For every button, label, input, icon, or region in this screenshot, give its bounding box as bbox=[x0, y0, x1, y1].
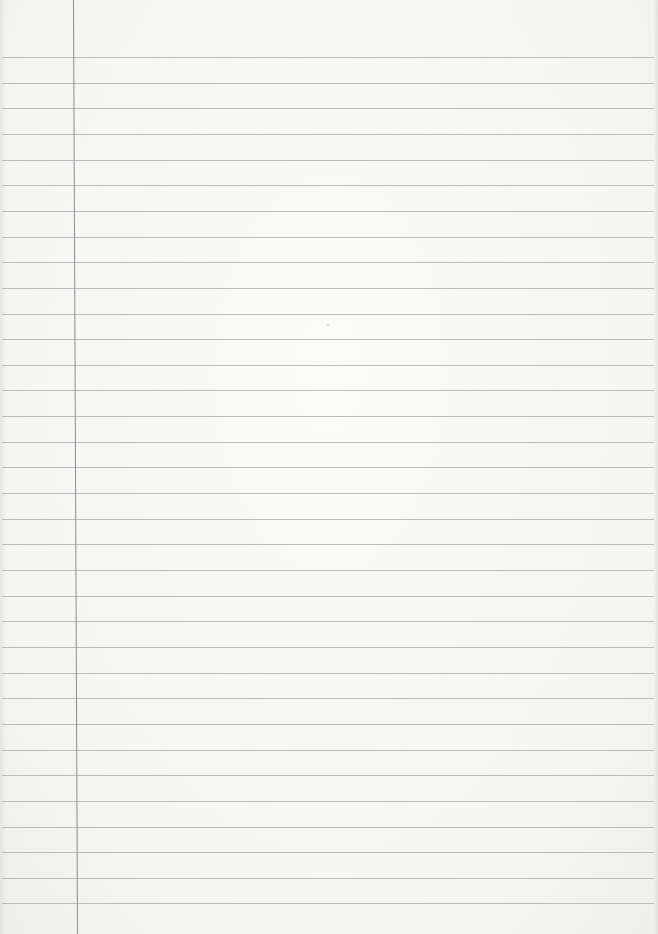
ruled-line bbox=[2, 852, 654, 853]
ruled-line bbox=[2, 288, 654, 289]
ruled-line bbox=[2, 416, 654, 417]
ruled-line bbox=[2, 262, 654, 263]
ruled-line bbox=[2, 160, 654, 161]
ruled-line bbox=[2, 237, 654, 238]
ruled-line bbox=[2, 544, 654, 545]
ruled-line bbox=[2, 108, 654, 109]
ruled-line bbox=[2, 801, 654, 802]
ruled-line bbox=[2, 442, 654, 443]
ruled-line bbox=[2, 724, 654, 725]
ruled-line bbox=[2, 134, 654, 135]
ruled-line bbox=[2, 339, 654, 340]
ruled-line bbox=[2, 596, 654, 597]
lined-paper-sheet bbox=[0, 0, 658, 934]
ruled-line bbox=[2, 827, 654, 828]
ruled-line bbox=[2, 83, 654, 84]
ruled-line bbox=[2, 647, 654, 648]
ruled-line bbox=[2, 467, 654, 468]
ruled-line bbox=[2, 570, 654, 571]
ruled-line bbox=[2, 698, 654, 699]
ruled-line bbox=[2, 903, 654, 904]
ruled-line bbox=[2, 314, 654, 315]
ruled-line bbox=[2, 673, 654, 674]
paper-speck bbox=[327, 324, 329, 326]
ruled-line bbox=[2, 57, 654, 58]
ruled-line bbox=[2, 493, 654, 494]
ruled-line bbox=[2, 390, 654, 391]
ruled-line bbox=[2, 365, 654, 366]
ruled-line bbox=[2, 621, 654, 622]
ruled-line bbox=[2, 750, 654, 751]
ruled-line bbox=[2, 211, 654, 212]
ruled-line bbox=[2, 519, 654, 520]
ruled-line bbox=[2, 878, 654, 879]
ruled-line bbox=[2, 775, 654, 776]
ruled-line bbox=[2, 185, 654, 186]
